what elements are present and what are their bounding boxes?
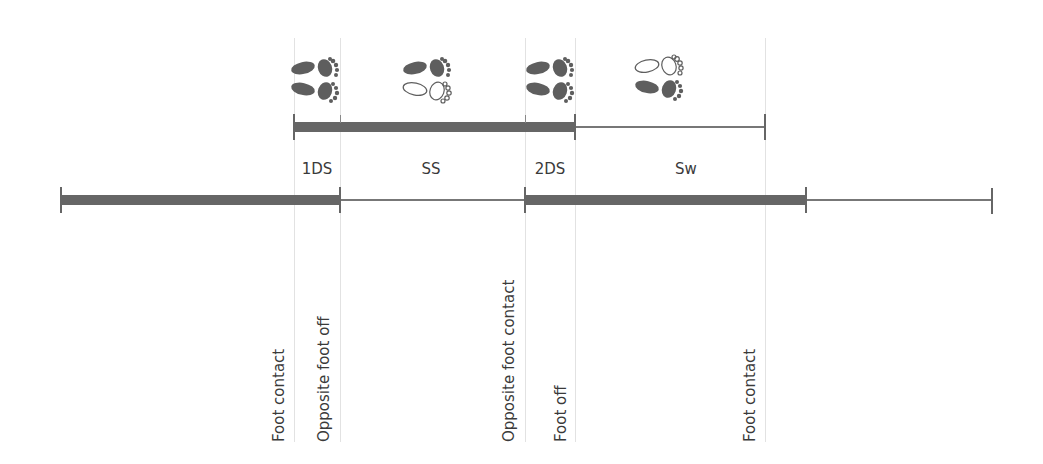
tick-top-1ds-end xyxy=(340,115,341,123)
phase-label-ss: SS xyxy=(421,160,440,178)
swing-bar-top xyxy=(575,126,765,128)
phase-label-sw: Sw xyxy=(675,160,697,178)
tick-bottom-mid xyxy=(805,187,807,213)
tick-bottom-start xyxy=(60,187,62,213)
event-label-opposite-foot-contact: Opposite foot contact xyxy=(500,280,518,442)
tick-top-start xyxy=(293,114,295,140)
stance-bar-top xyxy=(294,122,575,132)
event-label-opposite-foot-off: Opposite foot off xyxy=(315,316,333,442)
tick-bottom-end xyxy=(991,188,993,214)
event-label-foot-off: Foot off xyxy=(552,385,570,442)
guide-line-foot-contact-2 xyxy=(765,38,766,442)
swing-bar-bottom-2 xyxy=(806,199,992,201)
phase-label-1ds: 1DS xyxy=(302,160,333,178)
footprints-icon-1ds xyxy=(290,56,342,106)
event-label-foot-contact-2: Foot contact xyxy=(741,349,759,442)
tick-bottom-opposite-foot-off xyxy=(339,187,341,213)
footprints-icon-2ds xyxy=(525,56,577,106)
swing-bar-bottom-1 xyxy=(340,199,525,201)
event-label-foot-contact: Foot contact xyxy=(270,349,288,442)
stance-bar-bottom-2 xyxy=(525,195,806,205)
tick-bottom-opposite-foot-contact xyxy=(524,187,526,213)
tick-top-end xyxy=(764,114,766,140)
phase-label-2ds: 2DS xyxy=(535,160,566,178)
stance-bar-bottom-1 xyxy=(61,195,340,205)
footprints-icon-sw xyxy=(634,54,686,104)
tick-top-ss-end xyxy=(525,115,526,123)
tick-top-foot-off xyxy=(574,114,576,140)
footprints-icon-ss xyxy=(402,56,454,106)
